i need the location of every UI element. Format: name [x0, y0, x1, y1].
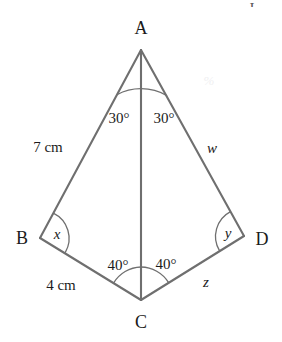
top-partial-glyph-artifact: I [250, 1, 255, 7]
angle-label-BAC: 30° [109, 111, 130, 126]
vertex-label-C: C [135, 313, 147, 331]
angle-label-ACD: 40° [156, 257, 177, 272]
edge-DA [141, 50, 244, 236]
angle-label-ABC: x [54, 227, 61, 242]
angle-label-ACB: 40° [108, 258, 129, 273]
vertex-label-D: D [256, 230, 269, 248]
angle-label-CAD: 30° [154, 111, 175, 126]
geometry-figure: A B C D 30° 30° x y 40° 40° 7 cm 4 cm w … [0, 0, 282, 342]
side-label-CD: z [203, 275, 209, 290]
vertex-label-A: A [135, 19, 148, 37]
figure-canvas [0, 0, 282, 342]
side-label-BC: 4 cm [46, 278, 76, 293]
vertex-label-B: B [16, 229, 28, 247]
side-label-DA: w [207, 141, 217, 156]
angle-label-ADC: y [225, 226, 232, 241]
side-label-AB: 7 cm [33, 140, 63, 155]
faint-watermark-artifact: % [204, 73, 215, 89]
